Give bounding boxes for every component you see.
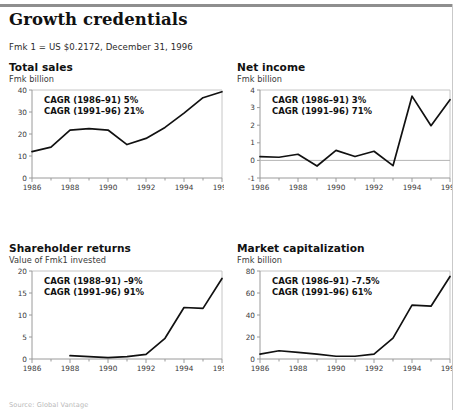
cagr-annotation: CAGR (1986–91) 5% — [44, 95, 139, 105]
x-tick-label: 1996 — [213, 183, 224, 192]
x-tick-label: 1994 — [175, 364, 194, 373]
figure-root: Growth credentials Fmk 1 = US $0.2172, D… — [0, 0, 459, 410]
page-title: Growth credentials — [9, 10, 188, 29]
chart-svg-total-sales: 010203040198619881990199219941996CAGR (1… — [9, 86, 224, 198]
chart-title: Shareholder returns — [9, 242, 224, 254]
chart-svg-shareholder-returns: 05101520198619881990199219941996CAGR (19… — [9, 267, 224, 379]
x-tick-label: 1992 — [365, 364, 384, 373]
x-tick-label: 1988 — [61, 364, 80, 373]
x-tick-label: 1986 — [23, 364, 42, 373]
x-tick-label: 1994 — [175, 183, 194, 192]
chart-subtitle: Fmk billion — [9, 74, 224, 84]
y-tick-label: -1 — [248, 174, 255, 183]
x-tick-label: 1986 — [251, 183, 270, 192]
chart-subtitle: Fmk billion — [237, 74, 452, 84]
y-tick-label: 30 — [18, 108, 28, 117]
cagr-annotation: CAGR (1988–91) –9% — [44, 276, 143, 286]
y-tick-label: 20 — [18, 130, 28, 139]
x-tick-label: 1988 — [289, 364, 308, 373]
y-tick-label: 4 — [250, 86, 255, 95]
x-tick-label: 1996 — [213, 364, 224, 373]
chart-subtitle: Fmk billion — [237, 255, 452, 265]
x-tick-label: 1990 — [99, 183, 118, 192]
y-tick-label: 20 — [18, 267, 28, 276]
x-tick-label: 1994 — [403, 183, 422, 192]
y-tick-label: 10 — [18, 152, 28, 161]
y-tick-label: 0 — [22, 174, 27, 183]
x-tick-label: 1986 — [23, 183, 42, 192]
y-tick-label: 0 — [250, 355, 255, 364]
panel-total-sales: Total sales Fmk billion 0102030401986198… — [9, 61, 224, 198]
y-tick-label: 40 — [18, 86, 28, 95]
y-tick-label: 0 — [22, 355, 27, 364]
chart-title: Market capitalization — [237, 242, 452, 254]
x-tick-label: 1990 — [327, 364, 346, 373]
right-divider — [452, 4, 453, 410]
cagr-annotation: CAGR (1986–91) –7.5% — [272, 276, 380, 286]
chart-subtitle: Value of Fmk1 invested — [9, 255, 224, 265]
y-tick-label: 3 — [250, 103, 255, 112]
y-tick-label: 0 — [250, 156, 255, 165]
chart-net-income: -101234198619881990199219941996CAGR (198… — [237, 86, 452, 198]
chart-svg-net-income: -101234198619881990199219941996CAGR (198… — [237, 86, 452, 198]
x-tick-label: 1996 — [441, 364, 452, 373]
y-tick-label: 20 — [246, 333, 256, 342]
x-tick-label: 1992 — [365, 183, 384, 192]
panel-shareholder-returns: Shareholder returns Value of Fmk1 invest… — [9, 242, 224, 379]
panel-net-income: Net income Fmk billion -1012341986198819… — [237, 61, 452, 198]
y-tick-label: 1 — [250, 138, 255, 147]
chart-title: Net income — [237, 61, 452, 73]
cagr-annotation: CAGR (1986–91) 3% — [272, 95, 367, 105]
top-divider — [0, 4, 452, 7]
chart-total-sales: 010203040198619881990199219941996CAGR (1… — [9, 86, 224, 198]
panel-market-capitalization: Market capitalization Fmk billion 020406… — [237, 242, 452, 379]
y-tick-label: 5 — [22, 333, 27, 342]
source-note: Source: Global Vantage — [9, 401, 88, 409]
chart-svg-market-capitalization: 020406080198619881990199219941996CAGR (1… — [237, 267, 452, 379]
x-tick-label: 1986 — [251, 364, 270, 373]
y-tick-label: 10 — [18, 311, 28, 320]
y-tick-label: 60 — [246, 289, 256, 298]
chart-shareholder-returns: 05101520198619881990199219941996CAGR (19… — [9, 267, 224, 379]
y-tick-label: 15 — [18, 289, 27, 298]
x-tick-label: 1988 — [289, 183, 308, 192]
y-tick-label: 40 — [246, 311, 256, 320]
x-tick-label: 1992 — [137, 183, 156, 192]
x-tick-label: 1992 — [137, 364, 156, 373]
cagr-annotation: CAGR (1991–96) 61% — [272, 287, 373, 297]
chart-title: Total sales — [9, 61, 224, 73]
cagr-annotation: CAGR (1991–96) 71% — [272, 106, 373, 116]
cagr-annotation: CAGR (1991–96) 91% — [44, 287, 145, 297]
cagr-annotation: CAGR (1991–96) 21% — [44, 106, 145, 116]
chart-market-capitalization: 020406080198619881990199219941996CAGR (1… — [237, 267, 452, 379]
y-tick-label: 2 — [250, 121, 255, 130]
x-tick-label: 1990 — [327, 183, 346, 192]
x-tick-label: 1990 — [99, 364, 118, 373]
x-tick-label: 1996 — [441, 183, 452, 192]
x-tick-label: 1994 — [403, 364, 422, 373]
x-tick-label: 1988 — [61, 183, 80, 192]
currency-note: Fmk 1 = US $0.2172, December 31, 1996 — [9, 42, 193, 52]
y-tick-label: 80 — [246, 267, 256, 276]
